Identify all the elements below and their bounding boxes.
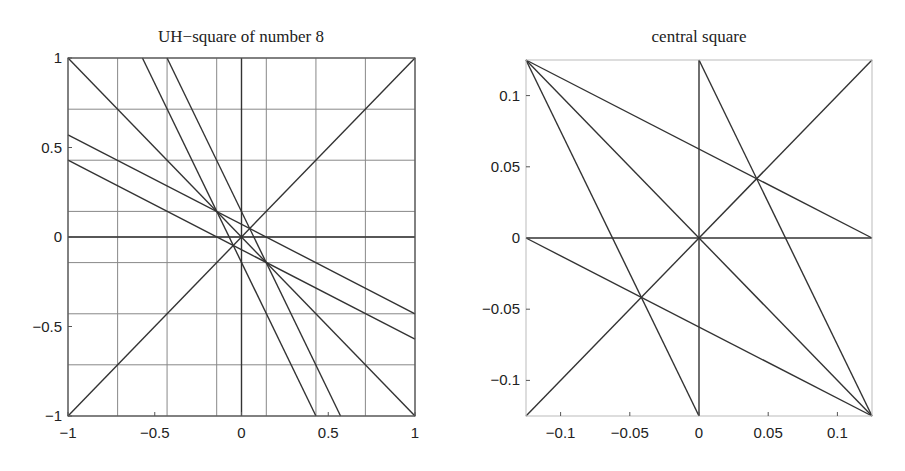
uh-square-ytick-label: −0.5 <box>32 318 62 335</box>
central-square-ticks: −0.1−0.0500.050.10.10.050−0.05−0.1 <box>482 87 848 441</box>
uh-square-ticks: −1−0.500.5110.50−0.5−1 <box>32 49 419 441</box>
central-square-ytick-label: 0.05 <box>491 158 520 175</box>
uh-square-xtick-label: −1 <box>59 424 76 441</box>
uh-square-title: UH−square of number 8 <box>158 27 324 46</box>
uh-square-xtick-label: 0.5 <box>318 424 339 441</box>
uh-square-ytick-label: 0.5 <box>41 139 62 156</box>
central-square-xtick-label: 0.05 <box>754 424 783 441</box>
uh-square-ytick-label: 0 <box>54 228 62 245</box>
central-square-xtick-label: 0 <box>695 424 703 441</box>
central-square-ytick-label: −0.05 <box>482 300 520 317</box>
uh-square-ytick-label: 1 <box>54 49 62 66</box>
central-square-series <box>526 60 872 416</box>
central-square-plot: central square −0.1−0.0500.050.10.10.050… <box>482 27 872 441</box>
central-square-xtick-label: 0.1 <box>827 424 848 441</box>
central-square-xtick-label: −0.1 <box>546 424 576 441</box>
uh-square-xtick-label: −0.5 <box>140 424 170 441</box>
uh-square-xtick-label: 1 <box>411 424 419 441</box>
central-square-xtick-label: −0.05 <box>611 424 649 441</box>
central-square-ytick-label: 0 <box>512 229 520 246</box>
central-square-title: central square <box>652 27 747 46</box>
uh-square-plot: UH−square of number 8 −1−0.500.5110.50−0… <box>32 27 419 441</box>
uh-square-ytick-label: −1 <box>45 407 62 424</box>
figure: UH−square of number 8 −1−0.500.5110.50−0… <box>0 0 905 471</box>
uh-square-series <box>68 58 415 416</box>
central-square-ytick-label: −0.1 <box>490 371 520 388</box>
uh-square-xtick-label: 0 <box>237 424 245 441</box>
central-square-ytick-label: 0.1 <box>499 87 520 104</box>
